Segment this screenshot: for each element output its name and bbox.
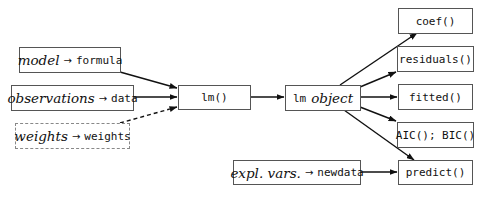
concept-label: model (18, 52, 60, 68)
output-label: coef() (416, 15, 456, 28)
input-weights-box: weights → weights (15, 123, 130, 149)
right-arrow-icon: → (64, 55, 72, 66)
concept-label: weights (14, 128, 68, 144)
argument-label: data (111, 92, 138, 105)
right-arrow-icon: → (305, 167, 313, 178)
output-fitted-box: fitted() (398, 84, 473, 110)
output-label: residuals() (399, 53, 472, 66)
argument-label: weights (84, 130, 130, 143)
concept-label: observations (7, 90, 94, 106)
object-code-label: lm (293, 92, 306, 105)
output-predict-box: predict() (398, 160, 473, 185)
output-aic-bic-box: AIC(); BIC() (397, 122, 474, 148)
input-model-box: model → formula (19, 47, 121, 73)
output-label: fitted() (409, 91, 462, 104)
object-label: object (311, 90, 353, 106)
lm-function-box: lm() (178, 85, 251, 110)
edge-lmobject-aic (360, 107, 396, 121)
right-arrow-icon: → (72, 131, 80, 142)
argument-label: newdata (317, 166, 363, 179)
input-observations-box: observations → data (11, 85, 134, 111)
output-label: AIC(); BIC() (396, 129, 475, 142)
output-residuals-box: residuals() (397, 46, 474, 72)
argument-label: formula (76, 54, 122, 67)
right-arrow-icon: → (99, 93, 107, 104)
input-explvars-box: expl. vars. → newdata (233, 160, 361, 185)
concept-label: expl. vars. (230, 165, 301, 181)
lm-object-box: lm object (285, 85, 361, 111)
output-coef-box: coef() (398, 8, 473, 34)
edge-lmobject-residuals (360, 72, 396, 87)
output-label: predict() (406, 166, 466, 179)
lm-function-label: lm() (201, 91, 228, 104)
